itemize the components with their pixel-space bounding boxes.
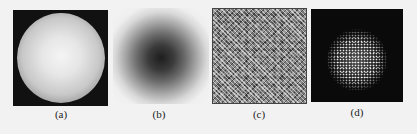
panel-d-image bbox=[311, 9, 403, 102]
panel-b-image bbox=[113, 8, 209, 104]
speckle-cloud bbox=[327, 28, 387, 92]
panel-c-caption: (c) bbox=[244, 108, 274, 120]
panel-c-image bbox=[212, 8, 307, 104]
panel-a-image bbox=[13, 10, 108, 106]
bright-disc bbox=[17, 13, 105, 103]
panel-d-caption: (d) bbox=[342, 106, 372, 118]
panel-b-caption: (b) bbox=[144, 108, 174, 120]
panel-a-caption: (a) bbox=[46, 108, 76, 120]
